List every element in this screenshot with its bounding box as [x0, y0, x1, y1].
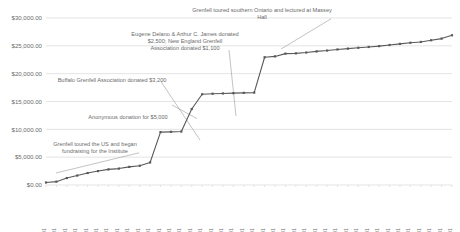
annot-grenfell-us-tour-leader — [56, 153, 139, 173]
x-axis-tick-label: 1907-11-01 — [187, 228, 193, 232]
annot-delano-james: Eugene Delano & Arthur C. James donated$… — [131, 31, 238, 51]
x-axis-tick-label: 1906-05-01 — [93, 228, 99, 232]
annot-anonymous-donation: Anonymous donation for $5,000 — [88, 114, 167, 120]
data-point-marker — [430, 39, 432, 41]
x-axis-tick-label: 1910-11-01 — [374, 228, 380, 232]
x-axis-tick-label: 1911-05-01 — [405, 228, 411, 232]
x-axis-tick-label: 1911-01-01 — [385, 228, 391, 232]
data-point-marker — [399, 43, 401, 45]
annot-grenfell-us-tour: Grenfell toured the US and beganfundrais… — [53, 141, 137, 154]
y-axis-tick-label: $0.00 — [27, 181, 43, 188]
x-axis-tick-label: 1909-03-01 — [270, 228, 276, 232]
data-point-marker — [45, 181, 47, 183]
annot-delano-james-leader — [229, 50, 236, 116]
data-point-marker — [97, 170, 99, 172]
data-point-marker — [149, 161, 151, 163]
data-point-marker — [191, 108, 193, 110]
data-point-marker — [159, 131, 161, 133]
y-axis-tick-label: $15,000.00 — [12, 98, 43, 105]
x-axis-tick-label: 1909-05-01 — [280, 228, 286, 232]
donations-line-chart: $0.00$5,000.00$10,000.00$15,000.00$20,00… — [0, 0, 460, 232]
data-point-marker — [378, 45, 380, 47]
data-point-marker — [76, 174, 78, 176]
x-axis-tick-label: 1907-07-01 — [166, 228, 172, 232]
x-axis-tick-label: 1908-11-01 — [249, 228, 255, 232]
x-axis-tick-label: 1906-09-01 — [114, 228, 120, 232]
data-point-marker — [264, 56, 266, 58]
data-point-marker — [107, 168, 109, 170]
data-point-marker — [295, 52, 297, 54]
data-point-marker — [440, 38, 442, 40]
x-axis-tick-label: 1906-01-01 — [72, 228, 78, 232]
data-point-marker — [316, 50, 318, 52]
data-point-marker — [211, 93, 213, 95]
x-axis-tick-label: 1912-01-01 — [447, 228, 453, 232]
data-point-marker — [420, 41, 422, 43]
data-point-marker — [170, 131, 172, 133]
y-axis-tick-label: $20,000.00 — [12, 70, 43, 77]
x-axis-tick-label: 1911-11-01 — [437, 228, 443, 232]
annotations-group: Grenfell toured the US and beganfundrais… — [53, 7, 332, 154]
data-point-marker — [451, 34, 453, 36]
data-point-marker — [118, 167, 120, 169]
x-axis-tick-label: 1908-09-01 — [239, 228, 245, 232]
gridlines-group — [46, 18, 452, 185]
chart-container: $0.00$5,000.00$10,000.00$15,000.00$20,00… — [0, 0, 460, 232]
y-axis-tick-label: $30,000.00 — [12, 14, 43, 21]
data-point-marker — [305, 51, 307, 53]
x-axis-tick-label: 1910-03-01 — [332, 228, 338, 232]
x-axis-tick-label: 1907-01-01 — [135, 228, 141, 232]
data-point-marker — [284, 53, 286, 55]
x-axis-tick-labels: 1905-07-011905-09-011905-11-011906-01-01… — [41, 185, 453, 232]
y-axis-tick-label: $25,000.00 — [12, 42, 43, 49]
y-axis-tick-label: $10,000.00 — [12, 126, 43, 133]
x-axis-tick-label: 1905-11-01 — [62, 228, 68, 232]
data-point-marker — [180, 130, 182, 132]
x-axis-tick-label: 1910-01-01 — [322, 228, 328, 232]
x-axis-tick-label: 1909-07-01 — [291, 228, 297, 232]
x-axis-tick-label: 1908-07-01 — [228, 228, 234, 232]
x-axis-tick-label: 1910-05-01 — [343, 228, 349, 232]
x-axis-tick-label: 1907-03-01 — [145, 228, 151, 232]
data-point-marker — [336, 48, 338, 50]
data-point-marker — [87, 172, 89, 174]
data-point-marker — [274, 55, 276, 57]
x-axis-tick-label: 1906-11-01 — [124, 228, 130, 232]
data-point-marker — [139, 165, 141, 167]
y-axis-tick-labels: $0.00$5,000.00$10,000.00$15,000.00$20,00… — [12, 14, 43, 188]
x-axis-tick-label: 1908-03-01 — [208, 228, 214, 232]
x-axis-tick-label: 1906-07-01 — [103, 228, 109, 232]
data-point-marker — [368, 46, 370, 48]
x-axis-tick-label: 1911-07-01 — [416, 228, 422, 232]
y-axis-tick-label: $5,000.00 — [15, 153, 43, 160]
data-point-marker — [222, 92, 224, 94]
data-point-markers — [45, 34, 453, 183]
data-point-marker — [388, 44, 390, 46]
x-axis-tick-label: 1908-01-01 — [197, 228, 203, 232]
annot-ontario-massey-hall-leader — [281, 19, 331, 49]
data-point-marker — [232, 92, 234, 94]
x-axis-tick-label: 1908-05-01 — [218, 228, 224, 232]
data-point-marker — [55, 181, 57, 183]
data-point-marker — [128, 166, 130, 168]
x-axis-tick-label: 1909-01-01 — [260, 228, 266, 232]
data-point-marker — [326, 49, 328, 51]
data-point-marker — [347, 48, 349, 50]
annot-buffalo-association: Buffalo Grenfell Association donated $3,… — [58, 77, 167, 83]
data-point-marker — [357, 47, 359, 49]
data-point-marker — [201, 93, 203, 95]
x-axis-tick-label: 1909-09-01 — [301, 228, 307, 232]
x-axis-tick-label: 1905-09-01 — [51, 228, 57, 232]
x-axis-tick-label: 1910-07-01 — [353, 228, 359, 232]
x-axis-tick-label: 1907-09-01 — [176, 228, 182, 232]
x-axis-tick-label: 1911-09-01 — [426, 228, 432, 232]
data-point-marker — [243, 92, 245, 94]
x-axis-tick-label: 1906-03-01 — [83, 228, 89, 232]
x-axis-tick-label: 1907-05-01 — [156, 228, 162, 232]
data-point-marker — [253, 91, 255, 93]
x-axis-tick-label: 1905-07-01 — [41, 228, 47, 232]
x-axis-tick-label: 1909-11-01 — [312, 228, 318, 232]
data-point-marker — [409, 42, 411, 44]
x-axis-tick-label: 1910-09-01 — [364, 228, 370, 232]
x-axis-tick-label: 1911-03-01 — [395, 228, 401, 232]
